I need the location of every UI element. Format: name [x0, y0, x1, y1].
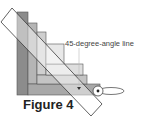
figure-caption: Figure 4 — [23, 97, 74, 112]
pin-dot-icon — [97, 90, 100, 93]
angle-annotation: 45-degree-angle line — [65, 39, 134, 48]
